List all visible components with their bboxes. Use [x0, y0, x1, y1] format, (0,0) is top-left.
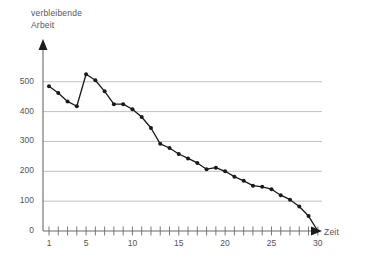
data-point [112, 102, 116, 106]
data-point [130, 107, 134, 111]
data-point [103, 89, 107, 93]
data-point [177, 152, 181, 156]
data-point [47, 84, 51, 88]
x-axis-tick-label: 5 [77, 238, 95, 248]
data-point [84, 72, 88, 76]
gridlines [43, 82, 322, 201]
y-axis-tick-label: 0 [8, 225, 34, 235]
x-axis-tick-label: 25 [263, 238, 281, 248]
data-point [56, 91, 60, 95]
data-point [149, 126, 153, 130]
data-point [140, 115, 144, 119]
data-point [93, 78, 97, 82]
data-point [242, 179, 246, 183]
data-point [121, 102, 125, 106]
data-point [214, 166, 218, 170]
chart-plot-area [0, 0, 366, 268]
data-point [158, 142, 162, 146]
y-axis-tick-label: 200 [8, 165, 34, 175]
chart-figure: verbleibende Arbeit Zeit 010020030040050… [0, 0, 366, 268]
data-point [269, 187, 273, 191]
data-point [223, 169, 227, 173]
y-axis-tick-label: 500 [8, 76, 34, 86]
data-point [205, 167, 209, 171]
data-point [288, 198, 292, 202]
data-point [66, 99, 70, 103]
y-axis-tick-label: 400 [8, 106, 34, 116]
x-axis-tick-label: 30 [309, 238, 327, 248]
x-axis-tick-label: 1 [40, 238, 58, 248]
data-point [251, 184, 255, 188]
data-point [232, 175, 236, 179]
data-point [297, 205, 301, 209]
data-point [307, 214, 311, 218]
data-point [75, 104, 79, 108]
x-axis-tick-label: 20 [216, 238, 234, 248]
y-axis-tick-label: 300 [8, 135, 34, 145]
data-point [168, 146, 172, 150]
data-point [260, 185, 264, 189]
data-series-markers [47, 72, 311, 218]
data-point [279, 193, 283, 197]
y-axis-tick-label: 100 [8, 195, 34, 205]
x-axis-tick-label: 15 [170, 238, 188, 248]
data-series-line [49, 74, 318, 231]
data-point [186, 156, 190, 160]
y-axis-arrow-icon [39, 39, 48, 50]
data-point [195, 161, 199, 165]
x-axis-tick-label: 10 [123, 238, 141, 248]
